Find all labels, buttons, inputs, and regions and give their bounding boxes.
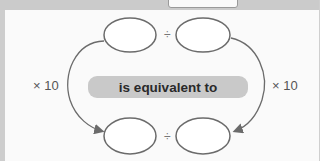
top-right-blank[interactable]: [176, 18, 230, 52]
equivalence-label: is equivalent to: [88, 76, 248, 98]
bottom-divide-symbol: ÷: [164, 130, 171, 144]
top-divide-symbol: ÷: [164, 28, 171, 42]
top-left-blank[interactable]: [104, 18, 156, 52]
right-multiply-label: × 10: [272, 78, 298, 93]
bottom-right-blank[interactable]: [176, 118, 230, 154]
bottom-left-blank[interactable]: [104, 118, 156, 154]
left-multiply-label: × 10: [33, 78, 59, 93]
